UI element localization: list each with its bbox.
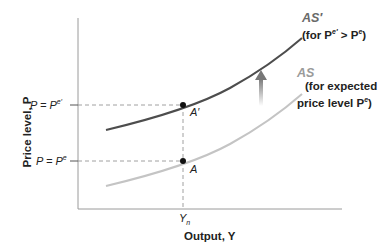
point-a-prime (180, 102, 186, 108)
as-prime-label: AS′ (for Pe′ > Pe) (302, 12, 366, 42)
as-curve (106, 94, 302, 186)
tick-label-yn: Yn (179, 212, 190, 226)
point-a (180, 158, 186, 164)
tick-label-pe-prime: P = Pe′ (30, 98, 62, 111)
as-label: AS (for expected price level Pe) (297, 67, 377, 110)
x-axis-label: Output, Y (184, 230, 236, 242)
point-label-a-prime: A′ (190, 106, 199, 118)
tick-label-pe: P = Pe (36, 154, 67, 167)
shift-arrow-icon (259, 78, 263, 106)
point-label-a: A (190, 163, 197, 175)
